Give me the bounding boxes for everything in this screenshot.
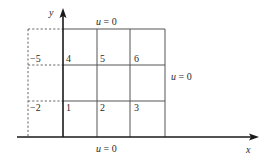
cell-label-2: 2 <box>100 102 105 113</box>
cell-label-1: 1 <box>66 102 71 113</box>
equals-zero-top: = 0 <box>101 16 117 27</box>
axes <box>17 8 259 141</box>
finite-difference-grid-diagram: y x u = 0 u = 0 u = 0 −5 −2 4 5 6 1 2 3 <box>0 0 269 159</box>
x-axis-label: x <box>245 144 251 155</box>
side-label-upper: −5 <box>30 53 41 64</box>
cell-label-6: 6 <box>134 53 139 64</box>
dashed-boundary-region <box>28 29 63 137</box>
side-label-lower: −2 <box>30 102 41 113</box>
boundary-label-top: u = 0 <box>96 16 117 27</box>
cell-label-5: 5 <box>100 53 105 64</box>
grid <box>63 29 165 137</box>
y-axis-label: y <box>48 7 54 18</box>
cell-label-4: 4 <box>66 53 71 64</box>
equals-zero-bottom: = 0 <box>101 143 117 154</box>
cell-label-3: 3 <box>134 102 139 113</box>
equals-zero-right: = 0 <box>176 71 192 82</box>
boundary-label-right: u = 0 <box>171 71 192 82</box>
boundary-label-bottom: u = 0 <box>96 143 117 154</box>
